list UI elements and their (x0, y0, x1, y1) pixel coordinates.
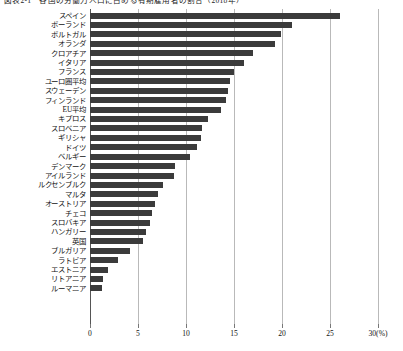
x-tick-label: 15 (230, 329, 238, 338)
category-label: ドイツ (0, 143, 86, 152)
bar (90, 144, 197, 150)
bar-track (90, 105, 378, 114)
bar (90, 173, 174, 179)
bar (90, 13, 340, 19)
page-title: 図表2-1 各国の労働力人口に占める有期雇用者の割合（2018年） (4, 0, 399, 6)
bar-row: デンマーク (0, 162, 403, 171)
bar (90, 41, 275, 47)
bar-row: オランダ (0, 39, 403, 48)
bar (90, 276, 103, 282)
bar (90, 78, 230, 84)
category-label: ラトビア (0, 256, 86, 265)
bar-track (90, 209, 378, 218)
bar-row: ブルガリア (0, 246, 403, 255)
bar-track (90, 143, 378, 152)
bar (90, 97, 226, 103)
bar-track (90, 190, 378, 199)
category-label: ルーマニア (0, 284, 86, 293)
bar-row: アイルランド (0, 171, 403, 180)
bar-track (90, 133, 378, 142)
bar (90, 229, 146, 235)
bar-row: ドイツ (0, 143, 403, 152)
bar-track (90, 30, 378, 39)
bar-row: ハンガリー (0, 227, 403, 236)
bar (90, 220, 150, 226)
bar (90, 135, 201, 141)
bar-row: EU平均 (0, 105, 403, 114)
bar (90, 125, 202, 131)
x-tick-20 (282, 324, 283, 328)
category-label: オランダ (0, 39, 86, 48)
bar (90, 22, 292, 28)
category-label: ギリシャ (0, 133, 86, 142)
category-label: エストニア (0, 265, 86, 274)
category-label: スペイン (0, 11, 86, 20)
bar-track (90, 124, 378, 133)
bar-track (90, 274, 378, 283)
x-tick-25 (330, 324, 331, 328)
bar (90, 107, 221, 113)
x-tick-label: 25 (326, 329, 334, 338)
x-tick-label: 20 (278, 329, 286, 338)
bar-track (90, 96, 378, 105)
x-tick-label: 0 (88, 329, 92, 338)
bar-track (90, 39, 378, 48)
category-label: スウェーデン (0, 86, 86, 95)
bar-track (90, 114, 378, 123)
bar-track (90, 227, 378, 236)
bar-track (90, 11, 378, 20)
category-label: 英国 (0, 237, 86, 246)
category-label: チェコ (0, 209, 86, 218)
bar-track (90, 67, 378, 76)
bar-rows: スペインポーランドポルトガルオランダクロアチアイタリアフランスユーロ圏平均スウェ… (0, 11, 403, 293)
bar-chart: スペインポーランドポルトガルオランダクロアチアイタリアフランスユーロ圏平均スウェ… (0, 9, 403, 351)
bar (90, 182, 163, 188)
bar-row: スペイン (0, 11, 403, 20)
bar-track (90, 58, 378, 67)
bar-row: スロベニア (0, 124, 403, 133)
category-label: EU平均 (0, 105, 86, 114)
x-tick-30 (378, 324, 379, 328)
x-tick-label: 30(%) (369, 329, 388, 338)
bar-row: ユーロ圏平均 (0, 77, 403, 86)
bar (90, 154, 190, 160)
x-tick-10 (186, 324, 187, 328)
bar (90, 191, 158, 197)
category-label: スロバキア (0, 218, 86, 227)
bar (90, 201, 155, 207)
bar (90, 88, 228, 94)
category-label: デンマーク (0, 162, 86, 171)
category-label: キプロス (0, 114, 86, 123)
bar (90, 69, 234, 75)
bar (90, 116, 208, 122)
x-tick-0 (90, 324, 91, 328)
x-tick-label: 5 (136, 329, 140, 338)
category-label: リトアニア (0, 274, 86, 283)
bar-track (90, 20, 378, 29)
bar-row: 英国 (0, 237, 403, 246)
category-label: ハンガリー (0, 227, 86, 236)
x-axis: 051015202530(%) (0, 324, 403, 350)
bar-row: クロアチア (0, 49, 403, 58)
x-tick-5 (138, 324, 139, 328)
category-label: ブルガリア (0, 246, 86, 255)
bar-track (90, 180, 378, 189)
bar (90, 267, 108, 273)
bar-row: チェコ (0, 209, 403, 218)
bar-track (90, 218, 378, 227)
bar (90, 60, 244, 66)
bar-track (90, 284, 378, 293)
bar-track (90, 199, 378, 208)
bar-row: キプロス (0, 114, 403, 123)
bar-track (90, 49, 378, 58)
x-tick-15 (234, 324, 235, 328)
bar (90, 238, 143, 244)
bar-row: ベルギー (0, 152, 403, 161)
category-label: アイルランド (0, 171, 86, 180)
bar-row: ルクセンブルク (0, 180, 403, 189)
bar-row: ラトビア (0, 256, 403, 265)
bar-track (90, 162, 378, 171)
category-label: ユーロ圏平均 (0, 77, 86, 86)
category-label: フランス (0, 67, 86, 76)
bar-row: エストニア (0, 265, 403, 274)
